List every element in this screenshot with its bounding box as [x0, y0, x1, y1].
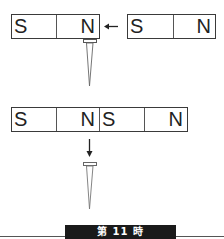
- nail-icon: [84, 163, 97, 210]
- arrow-down-icon: [87, 139, 93, 157]
- arrow-left-icon: [104, 24, 118, 30]
- diagram-graphics: [0, 0, 224, 239]
- lesson-label: 第 11 時: [65, 225, 176, 239]
- nail-icon: [84, 40, 97, 87]
